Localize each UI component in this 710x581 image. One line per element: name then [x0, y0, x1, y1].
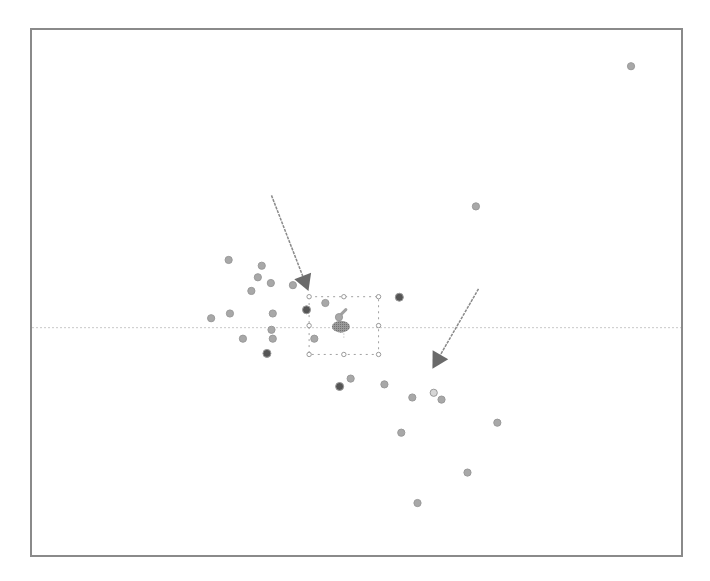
- resize-handle-w[interactable]: [307, 323, 311, 327]
- arrow-lower-right-shaft: [440, 289, 478, 355]
- data-point-27[interactable]: [398, 429, 405, 436]
- scatter-plot: [0, 0, 710, 581]
- data-point-1[interactable]: [627, 63, 634, 70]
- data-point-4[interactable]: [258, 262, 265, 269]
- center-cluster-texture: [332, 321, 350, 333]
- data-point-19[interactable]: [263, 349, 271, 357]
- data-point-25[interactable]: [430, 389, 437, 396]
- resize-handle-s[interactable]: [342, 352, 346, 356]
- data-point-10[interactable]: [303, 306, 311, 314]
- resize-handle-ne[interactable]: [376, 295, 380, 299]
- resize-handle-se[interactable]: [376, 352, 380, 356]
- resize-handle-n[interactable]: [342, 295, 346, 299]
- data-point-26[interactable]: [438, 396, 445, 403]
- data-point-5[interactable]: [254, 274, 261, 281]
- data-point-20[interactable]: [335, 314, 342, 321]
- data-point-30[interactable]: [414, 499, 421, 506]
- data-point-15[interactable]: [268, 326, 275, 333]
- arrow-upper-left-shaft: [271, 195, 302, 276]
- data-point-18[interactable]: [311, 335, 318, 342]
- data-point-12[interactable]: [226, 310, 233, 317]
- resize-handle-e[interactable]: [376, 323, 380, 327]
- data-point-6[interactable]: [267, 279, 274, 286]
- data-point-23[interactable]: [381, 381, 388, 388]
- resize-handle-nw[interactable]: [307, 295, 311, 299]
- data-point-7[interactable]: [248, 287, 255, 294]
- data-point-17[interactable]: [239, 335, 246, 342]
- data-point-22[interactable]: [336, 382, 344, 390]
- data-point-8[interactable]: [289, 282, 296, 289]
- data-point-11[interactable]: [395, 293, 403, 301]
- data-point-2[interactable]: [472, 203, 479, 210]
- resize-handle-sw[interactable]: [307, 352, 311, 356]
- data-point-29[interactable]: [464, 469, 471, 476]
- data-point-3[interactable]: [225, 256, 232, 263]
- arrow-lower-right-head: [432, 350, 448, 368]
- data-point-14[interactable]: [269, 310, 276, 317]
- data-point-13[interactable]: [208, 315, 215, 322]
- data-point-24[interactable]: [409, 394, 416, 401]
- data-point-16[interactable]: [269, 335, 276, 342]
- data-point-28[interactable]: [494, 419, 501, 426]
- data-point-9[interactable]: [322, 299, 329, 306]
- data-point-21[interactable]: [347, 375, 354, 382]
